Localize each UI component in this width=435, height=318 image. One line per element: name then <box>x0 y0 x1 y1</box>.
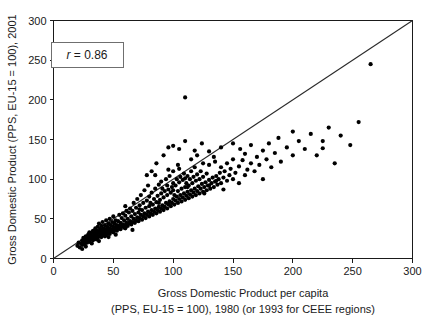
data-point <box>223 169 227 173</box>
data-point <box>84 245 88 249</box>
data-point <box>233 171 237 175</box>
data-point <box>202 191 206 195</box>
data-point <box>177 167 181 171</box>
data-point <box>159 179 163 183</box>
data-point <box>157 201 161 205</box>
data-point <box>138 207 142 211</box>
data-point <box>165 183 169 187</box>
correlation-value: = 0.86 <box>70 48 107 62</box>
data-point <box>190 195 194 199</box>
data-point <box>221 187 225 191</box>
x-axis-title-line1: Gross Domestic Product per capita <box>158 287 329 299</box>
data-point <box>130 228 134 232</box>
data-point <box>200 141 204 145</box>
x-tick-label: 250 <box>343 265 361 277</box>
data-point <box>207 149 211 153</box>
data-point <box>201 175 205 179</box>
data-point <box>267 141 271 145</box>
data-point <box>153 173 157 177</box>
data-point <box>194 193 198 197</box>
data-point <box>182 172 186 176</box>
data-point <box>183 139 187 143</box>
data-point <box>193 149 197 153</box>
data-point <box>243 152 247 156</box>
data-point <box>153 187 157 191</box>
data-point <box>111 214 115 218</box>
data-point <box>142 188 146 192</box>
data-point <box>185 185 189 189</box>
data-point <box>146 183 150 187</box>
data-point <box>297 139 301 143</box>
data-point <box>197 177 201 181</box>
data-point <box>176 163 180 167</box>
data-point <box>303 147 307 151</box>
data-point <box>348 143 352 147</box>
data-point <box>205 172 209 176</box>
data-point <box>291 153 295 157</box>
data-point <box>197 191 201 195</box>
data-point <box>164 177 168 181</box>
y-tick-label: 0 <box>40 253 46 265</box>
data-point <box>255 155 259 159</box>
data-point <box>172 202 176 206</box>
data-point <box>219 165 223 169</box>
data-point <box>231 141 235 145</box>
data-point <box>321 139 325 143</box>
data-point <box>207 163 211 167</box>
data-point <box>199 169 203 173</box>
data-point <box>171 188 175 192</box>
data-point <box>139 193 143 197</box>
data-point <box>333 161 337 165</box>
data-point <box>279 160 283 164</box>
data-point <box>134 206 138 210</box>
data-point <box>161 195 165 199</box>
data-point <box>151 202 155 206</box>
data-point <box>187 196 191 200</box>
data-point <box>179 199 183 203</box>
y-axis-title: Gross Domestic Product (PPS, EU-15 = 100… <box>6 14 18 264</box>
y-tick-label: 300 <box>28 15 46 27</box>
data-point <box>213 160 217 164</box>
data-point <box>132 201 136 205</box>
data-point <box>285 145 289 149</box>
data-point <box>106 235 110 239</box>
data-point <box>227 173 231 177</box>
data-point <box>183 198 187 202</box>
data-point <box>237 181 241 185</box>
x-tick-label: 0 <box>50 265 56 277</box>
data-point <box>194 179 198 183</box>
data-point <box>183 95 187 99</box>
data-point <box>264 157 268 161</box>
data-point <box>135 197 139 201</box>
data-point <box>166 145 170 149</box>
data-point <box>189 157 193 161</box>
y-tick-label: 50 <box>34 213 46 225</box>
data-point <box>369 62 373 66</box>
data-point <box>165 206 169 210</box>
data-point <box>321 146 325 150</box>
correlation-box-text: r = 0.86 <box>66 48 107 62</box>
data-point <box>237 164 241 168</box>
data-point <box>261 177 265 181</box>
y-tick-label: 150 <box>28 134 46 146</box>
data-point <box>90 241 94 245</box>
data-point <box>195 172 199 176</box>
data-point <box>97 239 101 243</box>
data-point <box>218 171 222 175</box>
data-point <box>173 183 177 187</box>
data-point <box>193 165 197 169</box>
data-point <box>225 179 229 183</box>
data-point <box>114 233 118 237</box>
data-point <box>249 143 253 147</box>
data-point <box>252 169 256 173</box>
data-point <box>231 157 235 161</box>
data-point <box>212 155 216 159</box>
data-point <box>240 158 244 162</box>
data-point <box>309 132 313 136</box>
data-point <box>215 183 219 187</box>
data-point <box>177 180 181 184</box>
data-point <box>211 175 215 179</box>
data-point <box>156 194 160 198</box>
data-point <box>291 129 295 133</box>
y-tick-label: 250 <box>28 54 46 66</box>
